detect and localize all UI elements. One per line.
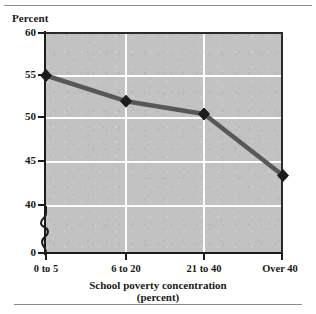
plot-texture	[46, 33, 282, 253]
bottom-rule	[14, 304, 302, 305]
gridline-55	[46, 75, 282, 77]
y-tick-label-0: 0	[31, 246, 37, 258]
x-tick-label-over-40: Over 40	[262, 263, 298, 274]
x-tick-label-0-to-5: 0 to 5	[34, 263, 59, 274]
y-tick-label-45: 45	[25, 154, 36, 166]
x-tick-mark-6-to-20	[125, 253, 127, 260]
plot-frame-right	[281, 32, 283, 254]
x-tick-mark-over-40	[281, 253, 283, 260]
gridline-50	[46, 117, 282, 119]
gridline-x-6-to-20	[125, 33, 127, 253]
y-axis-title: Percent	[12, 12, 49, 24]
plot-frame-top	[46, 32, 283, 34]
y-tick-label-40: 40	[25, 198, 36, 210]
x-axis-title-line1: School poverty concentration	[0, 279, 316, 291]
x-tick-mark-0-to-5	[45, 253, 47, 260]
y-tick-mark-50	[38, 116, 45, 118]
y-tick-label-55: 55	[25, 68, 36, 80]
gridline-40	[46, 205, 282, 207]
figure: Percent 60 55 50 45 40 0 0 to 5 6 to 20 …	[0, 0, 316, 314]
gridline-45	[46, 161, 282, 163]
y-tick-label-50: 50	[25, 110, 36, 122]
x-tick-label-21-to-40: 21 to 40	[187, 263, 222, 274]
y-tick-label-60: 60	[25, 26, 36, 38]
x-tick-label-6-to-20: 6 to 20	[111, 263, 141, 274]
y-tick-mark-55	[38, 74, 45, 76]
y-tick-mark-60	[38, 32, 45, 34]
y-tick-mark-45	[38, 160, 45, 162]
top-rule	[4, 5, 312, 6]
x-axis-title-line2: (percent)	[0, 291, 316, 303]
x-axis-line	[44, 252, 283, 254]
plot-area	[46, 33, 282, 253]
gridline-x-21-to-40	[203, 33, 205, 253]
x-tick-mark-21-to-40	[203, 253, 205, 260]
y-axis-break-icon	[39, 206, 53, 254]
